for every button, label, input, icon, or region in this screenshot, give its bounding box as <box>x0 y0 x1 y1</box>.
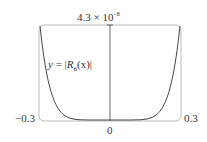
func-r: R <box>67 58 74 70</box>
x-max-label: 0.3 <box>184 113 198 124</box>
func-arg: (x)| <box>77 58 92 70</box>
func-eq: = | <box>53 58 67 70</box>
y-max-exponent: −8 <box>113 11 119 17</box>
x-min-label: −0.3 <box>15 113 35 124</box>
y-max-mantissa: 4.3 × 10 <box>77 11 113 23</box>
y-max-label: 4.3 × 10−8 <box>77 11 120 23</box>
function-label: y = |R6(x)| <box>48 59 92 73</box>
x-origin-label: 0 <box>107 125 113 136</box>
